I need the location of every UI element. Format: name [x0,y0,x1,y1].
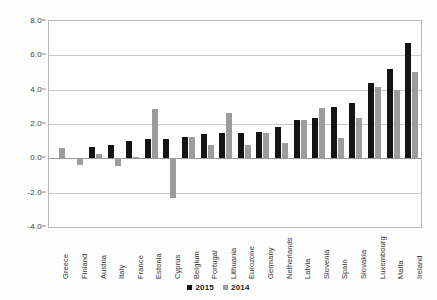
bar-2015-belgium[interactable] [182,137,188,158]
y-tick-label: 0.0 [30,153,42,162]
bar-2015-portugal[interactable] [201,134,207,158]
bar-2014-france[interactable] [133,157,139,159]
bar-2015-cyprus[interactable] [163,139,169,158]
y-axis: 8.06.04.02.00.0-2.0-4.0 [0,20,46,228]
bar-group [235,21,254,227]
bar-group [198,21,217,227]
legend-item-2014[interactable]: 2014 [223,283,250,292]
bar-2015-estonia[interactable] [145,139,151,158]
y-tick-mark [42,226,46,227]
x-tick-label-netherlands: Netherlands [285,237,294,279]
y-tick-mark [42,88,46,89]
x-tick-label-ireland: Ireland [415,255,424,279]
y-tick-mark [42,54,46,55]
y-tick-mark [42,20,46,21]
legend-swatch-icon [187,285,192,290]
bar-2014-italy[interactable] [115,158,121,166]
bar-2014-spain[interactable] [338,138,344,159]
bar-group [68,21,87,227]
bar-group [142,21,161,227]
bar-2014-malta[interactable] [394,90,400,159]
x-tick-label-italy: Italy [117,265,126,279]
bar-2014-slovenia[interactable] [319,108,325,159]
x-tick-label-estonia: Estonia [154,253,163,279]
bar-2014-eurozone[interactable] [245,145,251,159]
legend-item-2015[interactable]: 2015 [187,283,214,292]
x-tick-label-germany: Germany [266,247,275,279]
bar-2015-italy[interactable] [108,145,114,158]
y-tick-mark [42,123,46,124]
bar-group [365,21,384,227]
bar-2015-france[interactable] [126,141,132,158]
x-tick-label-greece: Greece [61,254,70,279]
y-tick-label: -2.0 [27,187,42,196]
bar-2014-finland[interactable] [77,158,83,165]
bar-2014-latvia[interactable] [301,120,307,159]
bar-2015-germany[interactable] [256,132,262,159]
bar-2015-slovakia[interactable] [349,103,355,159]
bar-group [272,21,291,227]
bar-group [216,21,235,227]
x-tick-label-slovakia: Slovakia [359,250,368,279]
bar-2014-belgium[interactable] [189,137,195,158]
y-tick-label: -4.0 [27,222,42,231]
bar-group [328,21,347,227]
x-tick-label-slovenia: Slovenia [322,249,331,279]
bar-group [347,21,366,227]
bar-2014-portugal[interactable] [208,145,214,159]
x-tick-label-spain: Spain [340,259,349,279]
bar-group [49,21,68,227]
legend-swatch-icon [223,285,228,290]
bar-2015-luxembourg[interactable] [368,83,374,159]
x-tick-label-lithuania: Lithuania [229,248,238,279]
bar-2014-lithuania[interactable] [226,113,232,158]
bar-group [161,21,180,227]
bar-2015-eurozone[interactable] [238,133,244,159]
x-tick-label-malta: Malta [396,260,405,279]
bar-group [86,21,105,227]
x-axis-labels: GreeceFinlandAustriaItalyFranceEstoniaCy… [49,229,421,281]
y-tick-mark [42,157,46,158]
y-tick-label: 6.0 [30,50,42,59]
bar-2014-ireland[interactable] [412,72,418,159]
bar-group [254,21,273,227]
bar-2015-latvia[interactable] [294,120,300,159]
y-tick-label: 4.0 [30,84,42,93]
bar-chart: 8.06.04.02.00.0-2.0-4.0 GreeceFinlandAus… [0,0,437,300]
bar-group [123,21,142,227]
bar-group [384,21,403,227]
x-tick-label-cyprus: Cyprus [173,255,182,279]
bar-2014-netherlands[interactable] [282,143,288,158]
bar-2015-austria[interactable] [89,147,95,158]
bar-2014-estonia[interactable] [152,109,158,158]
bar-group [402,21,421,227]
bars-layer [49,21,421,227]
x-tick-label-eurozone: Eurozone [247,246,256,279]
bar-group [291,21,310,227]
bar-group [179,21,198,227]
x-tick-label-france: France [136,255,145,279]
bar-2015-slovenia[interactable] [312,118,318,158]
chart-legend: 20152014 [0,283,437,292]
bar-2014-germany[interactable] [263,133,269,159]
legend-label: 2015 [195,283,214,292]
bar-2015-spain[interactable] [331,107,337,159]
y-tick-label: 8.0 [30,16,42,25]
bar-2015-malta[interactable] [387,69,393,158]
x-tick-label-portugal: Portugal [210,250,219,279]
bar-2014-greece[interactable] [59,148,65,158]
x-tick-label-belgium: Belgium [192,251,201,279]
x-tick-label-latvia: Latvia [303,258,312,279]
bar-2014-luxembourg[interactable] [375,87,381,158]
bar-group [105,21,124,227]
bar-group [309,21,328,227]
y-tick-label: 2.0 [30,119,42,128]
bar-2014-austria[interactable] [96,154,102,158]
x-tick-label-austria: Austria [99,255,108,279]
bar-2015-ireland[interactable] [405,43,411,158]
bar-2014-slovakia[interactable] [356,118,362,158]
bar-2015-netherlands[interactable] [275,127,281,159]
bar-2014-cyprus[interactable] [170,158,176,197]
bar-2015-lithuania[interactable] [219,133,225,158]
x-tick-label-finland: Finland [80,254,89,279]
